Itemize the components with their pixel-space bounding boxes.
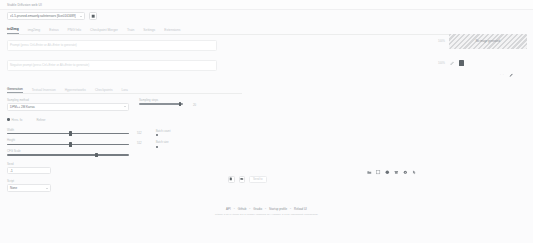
script-select[interactable]: None — [7, 184, 51, 192]
slider-handle[interactable] — [69, 142, 72, 146]
image-caption: No image generated — [476, 40, 500, 43]
negative-prompt-input[interactable]: Negative prompt (press Ctrl+Enter or Alt… — [7, 60, 217, 71]
batch-fields: Batch count Batch size — [156, 128, 171, 156]
footer-separator: • — [249, 207, 250, 211]
tab-png-info[interactable]: PNG Info — [68, 28, 82, 34]
footer-link-github[interactable]: Github — [238, 207, 247, 211]
send-to-button[interactable]: Send to — [249, 176, 267, 183]
steps-field: Sampling steps — [139, 98, 183, 105]
width-slider[interactable] — [7, 133, 129, 135]
pagination-dots: · · — [500, 73, 504, 77]
folder-open-button[interactable] — [367, 170, 372, 175]
height-value: 512 — [137, 141, 142, 145]
subtab-hypernetworks[interactable]: Hypernetworks — [65, 88, 86, 94]
zip-folder-icon — [240, 177, 244, 181]
footer: API • Github • Gradio • Startup profile … — [0, 207, 533, 216]
footer-link-startup-profile[interactable]: Startup profile — [269, 207, 287, 211]
tab-extras[interactable]: Extras — [49, 28, 58, 34]
checkpoint-select[interactable]: v1-5-pruned-emaonly.safetensors [6ce0161… — [7, 12, 85, 20]
width-value: 512 — [137, 131, 142, 135]
footer-version-info: python: 3.10.6 • torch: 2.0.1+cu118 • xf… — [0, 213, 533, 216]
save-button[interactable] — [228, 176, 235, 183]
archive-button[interactable] — [394, 170, 399, 175]
tab-train[interactable]: Train — [127, 28, 134, 34]
seed-field: Seed -1 — [7, 162, 267, 174]
footer-link-api[interactable]: API — [226, 207, 231, 211]
tab-extensions[interactable]: Extensions — [164, 28, 180, 34]
cfg-slider[interactable] — [7, 154, 129, 156]
result-actions: Send to — [228, 176, 267, 183]
steps-slider[interactable] — [139, 103, 183, 105]
zip-button[interactable] — [239, 176, 246, 183]
model-selector-row: v1-5-pruned-emaonly.safetensors [6ce0161… — [7, 12, 97, 20]
refresh-button[interactable] — [89, 12, 97, 20]
seed-label: Seed — [7, 162, 267, 166]
edit-image-button[interactable] — [449, 60, 455, 66]
chevron-down-icon — [46, 188, 48, 189]
settings-gear-icon — [403, 170, 408, 175]
progress-label-secondary: 100% — [438, 62, 445, 65]
webui-root: Stable Diffusion web UI v1-5-pruned-emao… — [0, 0, 533, 243]
send-to-label: Send to — [253, 177, 263, 181]
footer-separator: • — [234, 207, 235, 211]
brush-button[interactable] — [508, 72, 514, 78]
prompt-input[interactable]: Prompt (press Ctrl+Enter or Alt+Enter to… — [7, 40, 217, 51]
save-icon — [229, 177, 233, 181]
delete-image-button[interactable] — [459, 60, 464, 66]
generated-image-placeholder[interactable]: No image generated — [449, 34, 527, 49]
hires-fix-row[interactable]: Hires. fix Refiner — [7, 118, 267, 122]
tab-settings[interactable]: Settings — [143, 28, 155, 34]
stepper-handle[interactable] — [156, 146, 159, 149]
footer-separator: • — [265, 207, 266, 211]
batch-count-label: Batch count — [156, 129, 171, 133]
image-toolbar — [367, 170, 417, 175]
tab-img2img[interactable]: img2img — [28, 28, 40, 34]
sampler-label: Sampling method — [7, 98, 129, 102]
cursor-button[interactable] — [412, 170, 417, 175]
height-label: Height — [7, 138, 129, 142]
footer-link-gradio[interactable]: Gradio — [253, 207, 262, 211]
checkpoint-value: v1-5-pruned-emaonly.safetensors [6ce0161… — [10, 14, 76, 18]
archive-icon — [394, 170, 399, 175]
prompt-placeholder: Prompt (press Ctrl+Enter or Alt+Enter to… — [10, 43, 77, 47]
stepper-handle[interactable] — [156, 134, 159, 137]
save-image-button[interactable] — [376, 170, 381, 175]
seed-input[interactable]: -1 — [7, 167, 51, 174]
subtab-checkpoints[interactable]: Checkpoints — [95, 88, 113, 94]
size-values: 512 512 — [137, 128, 142, 156]
footer-separator: • — [290, 207, 291, 211]
sampler-select[interactable]: DPM++ 2M Karras — [7, 103, 129, 111]
gallery-row-top: 100% No image generated — [438, 34, 527, 49]
hires-fix-label: Hires. fix — [12, 118, 23, 122]
tab-checkpoint-merger[interactable]: Checkpoint Merger — [90, 28, 118, 34]
batch-count-stepper[interactable] — [156, 134, 171, 137]
tab-txt2img[interactable]: txt2img — [7, 27, 19, 34]
gallery-row-tools: 100% — [438, 60, 464, 66]
top-bar — [0, 0, 533, 10]
settings-button[interactable] — [403, 170, 408, 175]
height-slider[interactable] — [7, 144, 129, 146]
checkbox-icon[interactable] — [7, 118, 10, 121]
footer-link-reload-ui[interactable]: Reload UI — [294, 207, 307, 211]
cursor-arrow-icon — [412, 170, 417, 175]
palette-button[interactable] — [385, 170, 390, 175]
slider-handle[interactable] — [179, 102, 181, 106]
pencil-icon — [450, 61, 454, 65]
subtab-textual-inversion[interactable]: Textual Inversion — [32, 88, 56, 94]
cfg-label: CFG Scale — [7, 149, 129, 153]
refresh-icon — [91, 14, 95, 18]
slider-handle[interactable] — [95, 153, 98, 157]
seed-value: -1 — [10, 169, 13, 173]
app-title: Stable Diffusion web UI — [7, 3, 42, 7]
palette-icon — [385, 170, 390, 175]
batch-size-stepper[interactable] — [156, 146, 171, 149]
negative-prompt-placeholder: Negative prompt (press Ctrl+Enter or Alt… — [10, 63, 89, 67]
steps-label: Sampling steps — [139, 98, 183, 102]
subtab-generation[interactable]: Generation — [7, 87, 23, 94]
slider-handle[interactable] — [69, 131, 72, 135]
sampler-value: DPM++ 2M Karras — [10, 105, 35, 109]
subtab-lora[interactable]: Lora — [122, 88, 128, 94]
brush-icon — [509, 73, 513, 77]
size-sliders: Width Height CFG Scale — [7, 128, 129, 156]
batch-size-label: Batch size — [156, 140, 171, 144]
